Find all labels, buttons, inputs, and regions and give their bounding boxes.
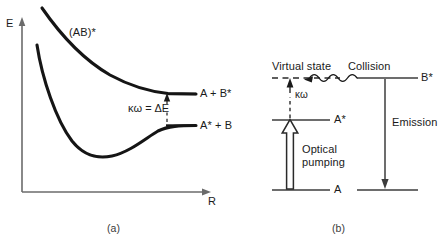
- optical-pumping-arrow: [282, 120, 298, 190]
- emission-arrow: [381, 79, 388, 189]
- level-label-a-ground: A: [334, 183, 341, 195]
- upper-asymptote-label: A + B*: [200, 87, 231, 99]
- upper-curve-label: (AB)*: [69, 26, 96, 38]
- figure-root: E R (AB)* A + B* A* + B κω = ΔE (a) Virt…: [0, 0, 440, 250]
- x-axis: [22, 189, 211, 196]
- lower-potential-curve: [37, 45, 196, 157]
- photon-transition-arrow: [287, 78, 294, 118]
- lower-asymptote-label: A* + B: [200, 119, 232, 131]
- level-label-a-star: A*: [334, 113, 346, 125]
- panel-b-caption: (b): [332, 222, 345, 234]
- collision-label: Collision: [348, 60, 390, 72]
- emission-label: Emission: [392, 116, 437, 128]
- level-label-b-star: B*: [421, 71, 433, 83]
- x-axis-label: R: [208, 195, 216, 207]
- photon-energy-label: κω: [295, 89, 308, 101]
- energy-gap-label: κω = ΔE: [128, 102, 169, 114]
- optical-pumping-label: Optical pumping: [302, 143, 345, 169]
- y-axis-label: E: [6, 17, 13, 29]
- panel-a-graphics: [19, 8, 211, 195]
- y-axis: [19, 17, 26, 192]
- panel-a-caption: (a): [107, 222, 120, 234]
- panel-b-graphics: [272, 75, 418, 190]
- upper-potential-curve: [42, 8, 196, 94]
- virtual-state-label: Virtual state: [272, 60, 331, 72]
